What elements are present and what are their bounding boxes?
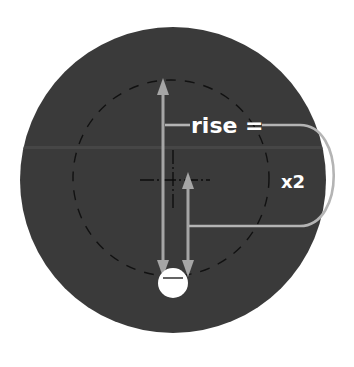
hole — [158, 268, 188, 298]
multiplier-label: x2 — [281, 171, 305, 192]
rise-diagram: rise = x2 — [0, 0, 354, 367]
rise-label: rise = — [191, 113, 264, 138]
